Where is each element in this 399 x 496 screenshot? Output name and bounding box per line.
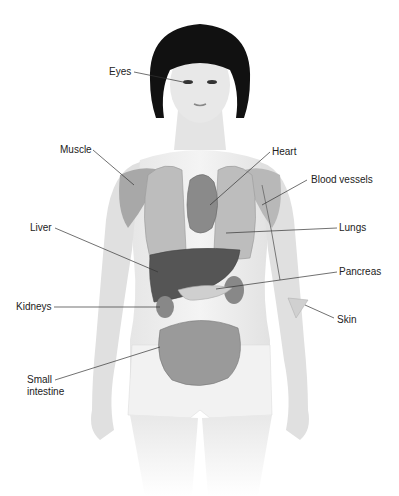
label-pancreas: Pancreas	[339, 266, 381, 278]
label-eyes: Eyes	[109, 66, 131, 78]
label-lungs: Lungs	[339, 222, 366, 234]
label-muscle: Muscle	[60, 144, 92, 156]
heart	[187, 174, 218, 233]
label-small-intestine: Small intestine	[27, 374, 87, 398]
body-diagram	[0, 0, 399, 496]
label-heart: Heart	[272, 146, 296, 158]
left-lung	[144, 166, 186, 259]
label-kidneys: Kidneys	[16, 301, 52, 313]
small-intestine	[159, 320, 241, 385]
label-liver: Liver	[30, 222, 52, 234]
right-lung	[214, 166, 256, 259]
label-blood-vessels: Blood vessels	[311, 174, 373, 186]
head	[150, 24, 250, 123]
body-silhouette	[91, 110, 309, 496]
label-skin: Skin	[337, 314, 356, 326]
